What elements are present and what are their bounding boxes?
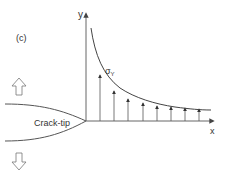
stress-arrows — [100, 75, 199, 121]
stress-label: σY — [105, 66, 115, 77]
crack-tip-label: Crack-tip — [34, 118, 70, 128]
panel-label: (c) — [16, 33, 27, 43]
opening-up-arrow-icon — [12, 78, 26, 95]
y-axis-label: y — [78, 9, 83, 20]
x-axis-label: x — [210, 126, 215, 136]
opening-down-arrow-icon — [12, 153, 26, 170]
stress-subscript: Y — [111, 71, 115, 77]
crack-tip-stress-diagram: (c) y x Crack-tip σY — [0, 0, 244, 185]
